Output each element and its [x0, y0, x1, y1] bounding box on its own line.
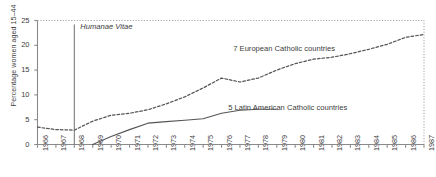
series-line: [38, 34, 425, 130]
series-line: [93, 109, 277, 144]
